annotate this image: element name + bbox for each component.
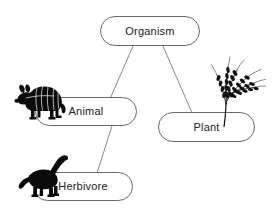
- node-animal-label: Animal: [69, 106, 104, 117]
- edge-organism-plant: [163, 46, 192, 113]
- node-animal[interactable]: Animal: [35, 97, 137, 126]
- node-plant-label: Plant: [193, 122, 219, 133]
- edge-animal-herbivore: [97, 126, 112, 173]
- node-herbivore-label: Herbivore: [58, 181, 108, 192]
- node-organism[interactable]: Organism: [100, 16, 200, 46]
- node-plant[interactable]: Plant: [158, 112, 255, 142]
- diagram-canvas: Organism Animal Plant Herbivore: [0, 0, 275, 214]
- edge-organism-animal: [110, 46, 133, 99]
- node-organism-label: Organism: [125, 26, 174, 37]
- node-herbivore[interactable]: Herbivore: [33, 172, 133, 201]
